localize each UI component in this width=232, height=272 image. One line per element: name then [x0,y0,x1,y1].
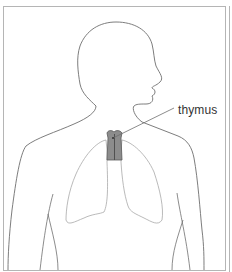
leader-dot [112,137,114,139]
head-outline [78,22,204,270]
thymus-label: thymus [178,103,217,117]
back-shoulder-outline [8,106,96,270]
right-lung [121,140,163,223]
left-arm-crease [40,194,58,270]
right-arm-crease [172,193,190,270]
anatomy-diagram [0,0,232,272]
left-lung [66,140,108,223]
thymus-leader-line [113,108,174,138]
